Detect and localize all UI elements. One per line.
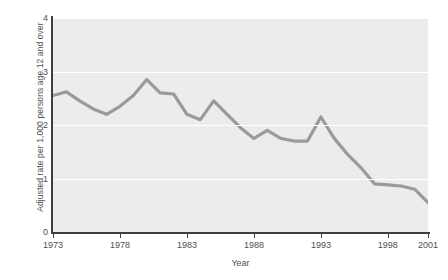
y-axis-line [51, 16, 53, 234]
x-axis-title: Year [53, 258, 428, 268]
y-tick-label-4: 4 [26, 13, 48, 23]
x-tick-mark-1988 [254, 234, 255, 238]
x-tick-label-2001: 2001 [408, 240, 448, 250]
x-tick-label-1998: 1998 [368, 240, 408, 250]
gridline-y-4 [53, 18, 428, 19]
y-tick-label-3: 3 [26, 67, 48, 77]
x-tick-label-1983: 1983 [167, 240, 207, 250]
gridline-y-2 [53, 125, 428, 126]
x-tick-mark-1993 [321, 234, 322, 238]
plot-area [53, 18, 428, 232]
chart-figure: Adjusted rate per 1,000 persons age 12 a… [0, 0, 448, 280]
x-tick-mark-1978 [120, 234, 121, 238]
x-tick-label-1988: 1988 [234, 240, 274, 250]
x-tick-mark-1998 [388, 234, 389, 238]
gridline-y-3 [53, 72, 428, 73]
x-tick-mark-1973 [53, 234, 54, 238]
y-tick-label-1: 1 [26, 174, 48, 184]
x-tick-mark-2001 [428, 234, 429, 238]
y-tick-label-2: 2 [26, 120, 48, 130]
x-tick-label-1973: 1973 [33, 240, 73, 250]
x-tick-mark-1983 [187, 234, 188, 238]
x-tick-label-1978: 1978 [100, 240, 140, 250]
gridline-y-1 [53, 179, 428, 180]
x-tick-label-1993: 1993 [301, 240, 341, 250]
